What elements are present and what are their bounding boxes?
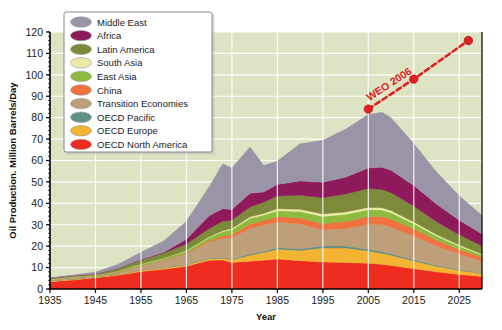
y-tick-label: 100 <box>25 69 43 81</box>
x-tick-label: 2015 <box>402 294 426 306</box>
legend-label-china: China <box>97 85 123 96</box>
y-axis-title: Oil Production. Million Barrels/Day <box>7 82 18 239</box>
x-tick-label: 1985 <box>266 294 290 306</box>
x-tick-label: 1975 <box>220 294 244 306</box>
y-tick-label: 120 <box>25 26 43 38</box>
legend-swatch-oecd-north-america <box>71 139 92 149</box>
legend-swatch-oecd-europe <box>71 126 92 136</box>
legend-label-transition-economies: Transition Economies <box>97 98 188 109</box>
y-tick-label: 0 <box>37 283 43 295</box>
legend-label-east-asia: East Asia <box>97 71 137 82</box>
legend-label-oecd-pacific: OECD Pacific <box>97 112 155 123</box>
legend-swatch-east-asia <box>71 71 92 81</box>
y-tick-label: 10 <box>31 261 43 273</box>
weo-2006-marker <box>464 36 472 44</box>
y-tick-label: 110 <box>26 47 43 59</box>
chart-canvas: WEO 2006 1935194519551965197519851995200… <box>0 0 502 330</box>
y-tick-label: 80 <box>31 111 43 123</box>
x-tick-label: 2025 <box>448 294 472 306</box>
y-tick-label: 50 <box>31 176 43 188</box>
legend-label-middle-east: Middle East <box>97 17 147 28</box>
legend-label-africa: Africa <box>97 30 122 41</box>
x-axis-title: Year <box>256 311 276 322</box>
legend-label-south-asia: South Asia <box>97 57 143 68</box>
x-tick-label: 1995 <box>311 294 335 306</box>
y-tick-label: 60 <box>31 154 43 166</box>
legend-swatch-oecd-pacific <box>71 112 92 122</box>
x-tick-label: 2005 <box>357 294 381 306</box>
legend-swatch-latin-america <box>71 44 92 54</box>
y-tick-label: 90 <box>31 90 43 102</box>
legend-swatch-middle-east <box>71 17 92 27</box>
legend-swatch-south-asia <box>71 58 92 68</box>
legend-swatch-africa <box>71 30 92 40</box>
x-tick-label: 1965 <box>175 294 199 306</box>
weo-2006-marker <box>364 105 372 113</box>
chart-legend: Middle EastAfricaLatin AmericaSouth Asia… <box>64 12 215 155</box>
x-tick-label: 1955 <box>129 294 153 306</box>
legend-label-oecd-north-america: OECD North America <box>97 139 188 150</box>
legend-label-oecd-europe: OECD Europe <box>97 125 158 136</box>
x-tick-label: 1945 <box>84 294 108 306</box>
x-tick-label: 1935 <box>38 294 62 306</box>
y-tick-label: 30 <box>31 219 43 231</box>
oil-production-chart: WEO 2006 1935194519551965197519851995200… <box>0 0 502 330</box>
y-tick-label: 20 <box>31 240 43 252</box>
legend-swatch-china <box>71 85 92 95</box>
legend-swatch-transition-economies <box>71 98 92 108</box>
y-tick-label: 40 <box>31 197 43 209</box>
y-tick-label: 70 <box>31 133 43 145</box>
legend-label-latin-america: Latin America <box>97 44 155 55</box>
